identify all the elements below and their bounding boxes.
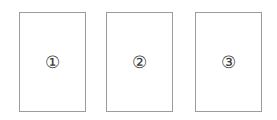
panel-2-label: ②	[132, 54, 147, 71]
panel-3-label: ③	[221, 54, 236, 71]
diagram-canvas: ① ② ③	[0, 0, 277, 120]
panel-1-label: ①	[45, 54, 60, 71]
panel-1[interactable]: ①	[19, 12, 86, 112]
panel-3[interactable]: ③	[195, 12, 262, 112]
panel-2[interactable]: ②	[106, 12, 173, 112]
